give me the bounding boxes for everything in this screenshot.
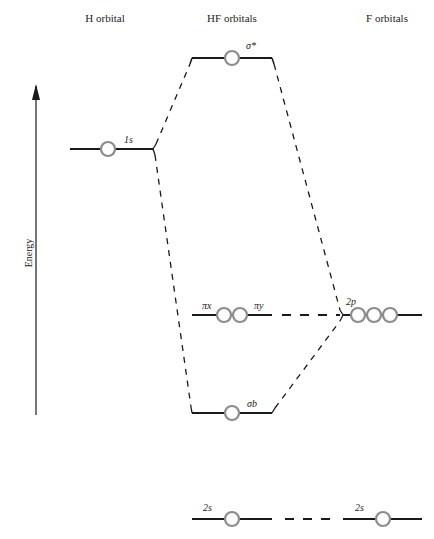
f-2s-level: [343, 512, 422, 526]
dash-h1s-to-sigma-b: [155, 155, 191, 407]
pi-x-label: πx: [202, 300, 211, 311]
energy-axis-arrow: [32, 84, 40, 415]
hf-2s-level: [192, 512, 272, 526]
electron-circle: [383, 308, 397, 322]
electron-circle: [101, 142, 115, 156]
sigma-b-label: σb: [247, 398, 257, 409]
electron-circle: [225, 51, 239, 65]
dash-sigma-star-to-f2p: [274, 64, 340, 310]
h-1s-label: 1s: [124, 134, 133, 145]
sigma-star-level: [190, 51, 274, 65]
electron-circle: [225, 512, 239, 526]
electron-circle: [225, 406, 239, 420]
dash-sigma-b-to-f2p: [275, 321, 340, 408]
sigma-star-label: σ*: [246, 40, 256, 51]
f-2p-level: [340, 308, 422, 322]
dash-h1s-to-sigma-star: [156, 64, 190, 144]
f-2p-label: 2p: [346, 296, 356, 307]
electron-circle: [351, 308, 365, 322]
nonbonding-connectors: [282, 315, 340, 519]
sigma-bonding-level: [191, 406, 275, 420]
electron-circle: [367, 308, 381, 322]
pi-y-label: πy: [254, 300, 263, 311]
electron-circle: [376, 512, 390, 526]
f-2s-label: 2s: [355, 502, 364, 513]
electron-circle: [233, 308, 247, 322]
correlation-lines: [155, 64, 340, 408]
h-1s-level: [70, 142, 156, 156]
electron-circle: [217, 308, 231, 322]
hf-2s-label: 2s: [203, 502, 212, 513]
orbital-diagram-canvas: [0, 0, 434, 539]
